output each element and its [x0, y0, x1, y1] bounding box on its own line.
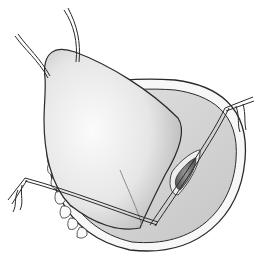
- illustration: [0, 0, 263, 263]
- surgical-drawing: [0, 0, 263, 263]
